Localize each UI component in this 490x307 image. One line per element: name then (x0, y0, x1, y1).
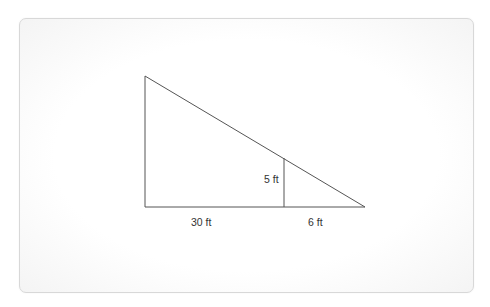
similar-triangles-diagram: 5 ft 30 ft 6 ft (0, 0, 490, 307)
label-inner-height: 5 ft (264, 173, 279, 185)
hypotenuse (145, 76, 365, 207)
label-base-right: 6 ft (308, 216, 323, 228)
label-base-left: 30 ft (191, 216, 212, 228)
